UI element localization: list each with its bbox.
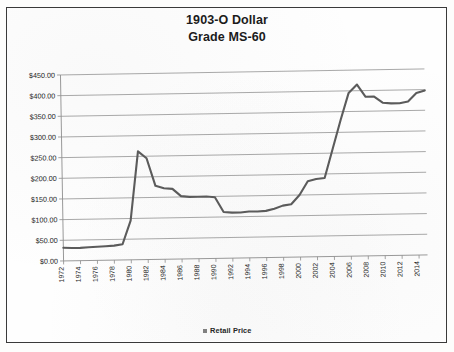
y-axis-label: $350.00 — [30, 112, 56, 121]
plot-area-wrapper: $0.00$50.00$100.00$150.00$200.00$250.00$… — [0, 0, 454, 352]
x-axis-label: 2008 — [362, 262, 369, 278]
x-axis-label: 2012 — [396, 261, 403, 277]
x-axis-label: 2004 — [329, 262, 336, 278]
retail-price-line — [61, 83, 428, 248]
x-axis-label: 1996 — [261, 263, 268, 279]
x-axis-label: 1980 — [125, 266, 132, 282]
chart-legend: Retail Price — [0, 321, 454, 339]
legend-label: Retail Price — [210, 326, 251, 335]
gridlines-group — [60, 69, 427, 240]
x-axis-label: 1972 — [58, 267, 65, 283]
x-axis-label: 2000 — [295, 263, 302, 279]
y-axis-label: $50.00 — [36, 236, 58, 245]
gridline — [62, 152, 426, 158]
y-axis-label: $450.00 — [29, 71, 55, 80]
x-axis-label: 1994 — [244, 264, 251, 280]
x-axis-label: 1976 — [92, 266, 99, 282]
x-axis-label: 2002 — [312, 263, 319, 279]
y-axis-label: $150.00 — [31, 195, 57, 204]
gridline — [63, 234, 427, 240]
gridline — [63, 214, 427, 220]
x-axis-labels-group: 1972197419761978198019821984198619881990… — [58, 261, 421, 283]
y-axis-label: $400.00 — [29, 91, 55, 100]
x-axis-label: 1988 — [193, 265, 200, 281]
gridline — [61, 110, 425, 116]
y-axis-ticks-group — [57, 75, 64, 261]
y-axis-label: $300.00 — [30, 133, 56, 142]
gridline — [62, 172, 426, 178]
x-axis-label: 1998 — [278, 263, 285, 279]
y-axis-label: $250.00 — [30, 153, 56, 162]
x-axis-line — [64, 255, 428, 261]
x-axis-label: 1986 — [176, 265, 183, 281]
legend-item-retail-price: Retail Price — [203, 321, 252, 339]
legend-swatch-icon — [203, 329, 208, 334]
x-axis-label: 1974 — [75, 267, 82, 283]
gridline — [61, 90, 425, 96]
y-axis-labels-group: $0.00$50.00$100.00$150.00$200.00$250.00$… — [29, 71, 58, 266]
y-axis-label: $200.00 — [31, 174, 57, 183]
y-axis-line — [60, 75, 63, 261]
gridline — [63, 193, 427, 199]
y-axis-label: $100.00 — [31, 215, 57, 224]
y-axis-label: $0.00 — [40, 257, 58, 266]
x-axis-label: 1990 — [210, 264, 217, 280]
chart-image: 1903-O Dollar Grade MS-60 $0.00$50.00$10… — [0, 0, 454, 352]
x-axis-label: 2010 — [379, 261, 386, 277]
gridline — [62, 131, 426, 137]
x-axis-label: 1984 — [159, 265, 166, 281]
x-axis-label: 1982 — [142, 265, 149, 281]
gridline — [60, 69, 424, 75]
x-axis-label: 2006 — [345, 262, 352, 278]
x-axis-label: 2014 — [413, 261, 420, 277]
x-axis-label: 1978 — [108, 266, 115, 282]
line-chart-svg: $0.00$50.00$100.00$150.00$200.00$250.00$… — [0, 0, 454, 352]
x-axis-label: 1992 — [227, 264, 234, 280]
